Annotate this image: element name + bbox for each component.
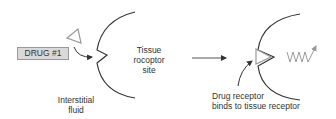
receptor-label-line3: site [126, 65, 172, 75]
response-zigzag-icon [287, 46, 316, 62]
fluid-label-line2: fluid [48, 105, 104, 115]
tissue-receptor-right-icon [258, 14, 300, 100]
binding-label-line2: binds to tissue receptor [212, 101, 336, 111]
receptor-site-label: Tissue rocoptor site [126, 45, 172, 75]
drug-molecule-icon [67, 29, 81, 43]
bound-drug-icon [256, 49, 271, 64]
binding-pointer-arrow-icon [238, 61, 252, 86]
fluid-label-line1: Interstitial [48, 95, 104, 105]
interstitial-fluid-label: Interstitial fluid [48, 95, 104, 115]
approach-arrow-icon [74, 47, 92, 57]
receptor-label-line1: Tissue [126, 45, 172, 55]
binding-label: Drug receptor binds to tissue receptor [212, 91, 336, 111]
binding-label-line1: Drug receptor [212, 91, 336, 101]
drug-label-box: DRUG #1 [17, 47, 69, 60]
receptor-label-line2: rocoptor [126, 55, 172, 65]
